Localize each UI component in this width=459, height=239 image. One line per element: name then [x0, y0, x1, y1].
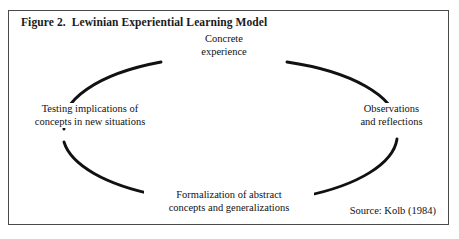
figure-box: Figure 2. Lewinian Experiential Learning… — [8, 10, 449, 225]
node-label-line-1: Observations — [339, 103, 444, 116]
node-label-line-1: Concrete — [169, 33, 279, 46]
arc-formalization-to-testing — [64, 142, 157, 195]
node-label-line-2: and reflections — [339, 116, 444, 129]
node-label-formalization: Formalization of abstract concepts and g… — [144, 189, 314, 214]
arc-observations-to-formalization — [305, 139, 397, 196]
node-label-line-1: Formalization of abstract — [144, 189, 314, 202]
source-attribution: Source: Kolb (1984) — [350, 205, 436, 216]
node-label-concrete-experience: Concrete experience — [169, 33, 279, 58]
node-label-line-2: concepts in new situations — [15, 116, 165, 129]
node-label-line-2: concepts and generalizations — [144, 202, 314, 215]
node-label-line-1: Testing implications of — [15, 103, 165, 116]
node-label-observations-reflections: Observations and reflections — [339, 103, 444, 128]
node-label-line-2: experience — [169, 46, 279, 59]
node-label-testing-implications: Testing implications of concepts in new … — [15, 103, 165, 128]
learning-cycle-diagram: Concrete experience Observations and ref… — [9, 11, 450, 226]
